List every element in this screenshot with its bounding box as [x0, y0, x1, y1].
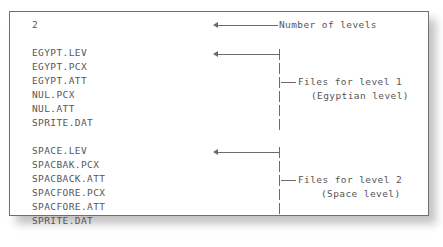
annotation-level-1-title: Files for level 1 [298, 75, 402, 89]
level-2-pipe-3 [279, 175, 280, 186]
annotation-level-1-subtitle: (Egyptian level) [311, 89, 409, 103]
level-1-pipe-3 [279, 77, 280, 88]
level-1-connector-line [281, 82, 296, 83]
level-1-pipe-2 [279, 63, 280, 74]
header-arrow-line [218, 25, 278, 26]
annotation-level-2-subtitle: (Space level) [321, 187, 401, 201]
level-2-connector-line [281, 180, 296, 181]
level-1-pipe-6 [279, 119, 280, 130]
level-1-pipe-1 [279, 49, 280, 60]
annotation-layer: Number of levels Files for level 1 (Egyp… [10, 12, 428, 215]
level-2-pipe-5 [279, 203, 280, 214]
level-2-pipe-2 [279, 161, 280, 172]
figure-page: 2 EGYPT.LEV EGYPT.PCX EGYPT.ATT NUL.PCX … [0, 0, 443, 247]
level-2-arrow-line [218, 152, 279, 153]
figure-box: 2 EGYPT.LEV EGYPT.PCX EGYPT.ATT NUL.PCX … [9, 11, 429, 216]
annotation-level-2-title: Files for level 2 [298, 173, 402, 187]
level-2-pipe-4 [279, 189, 280, 200]
annotation-number-of-levels: Number of levels [279, 18, 377, 32]
level-2-pipe-1 [279, 147, 280, 158]
level-1-pipe-5 [279, 105, 280, 116]
level-1-arrow-line [218, 54, 279, 55]
level-1-pipe-4 [279, 91, 280, 102]
